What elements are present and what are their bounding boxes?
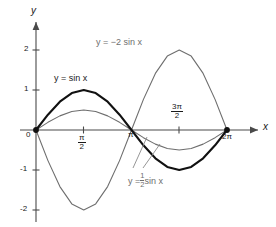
fraction-denominator: 2 — [171, 112, 183, 120]
x-axis-arrowhead — [250, 127, 258, 134]
x-tick-label-three-pi-over-2: 3π 2 — [171, 103, 183, 121]
curve-annotation-half-sin-x: y =12sin x — [128, 172, 163, 189]
x-tick-label-pi: π — [128, 131, 134, 139]
y-tick-label-1: 1 — [24, 85, 28, 93]
x-tick-label-two-pi: 2π — [222, 133, 232, 141]
x-tick-label-pi-over-2: π 2 — [78, 134, 86, 152]
curve-annotation-sin-x: y = sin x — [54, 74, 87, 83]
x-axis-label: x — [263, 122, 268, 132]
origin-label: 0 — [26, 131, 30, 139]
fraction-denominator: 2 — [78, 143, 86, 151]
curve-annotation-neg2-sin-x: y = −2 sin x — [96, 38, 142, 47]
equation-suffix: sin x — [144, 176, 163, 186]
equation-prefix: y = — [128, 176, 140, 186]
y-axis-label: y — [31, 6, 36, 16]
y-tick-label-minus-2: -2 — [20, 205, 27, 213]
trig-graph-figure — [0, 0, 276, 227]
y-tick-label-minus-1: -1 — [20, 165, 27, 173]
y-axis-arrowhead — [33, 22, 40, 30]
y-tick-label-2: 2 — [24, 45, 28, 53]
fraction-three-pi-over-2: 3π 2 — [171, 103, 183, 121]
origin-point-marker — [33, 127, 39, 133]
fraction-pi-over-2: π 2 — [78, 134, 86, 152]
